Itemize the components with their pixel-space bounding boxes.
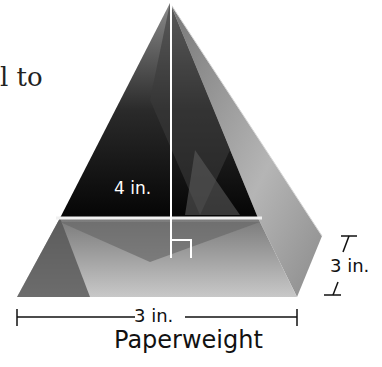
pyramid-figure	[0, 0, 382, 367]
height-label: 4 in.	[114, 178, 151, 198]
width-label: 3 in.	[134, 305, 173, 326]
figure-caption: Paperweight	[114, 326, 263, 354]
depth-label: 3 in.	[330, 255, 369, 276]
